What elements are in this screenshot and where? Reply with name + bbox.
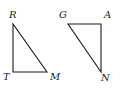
vertex-label-m: M [50, 72, 60, 82]
vertex-label-n: N [101, 73, 110, 83]
triangle-rtm [13, 24, 47, 72]
vertex-label-r: R [9, 10, 17, 20]
triangle-gan [68, 24, 101, 72]
vertex-label-a: A [104, 10, 111, 20]
vertex-label-t: T [3, 72, 10, 82]
vertex-label-g: G [59, 10, 67, 20]
